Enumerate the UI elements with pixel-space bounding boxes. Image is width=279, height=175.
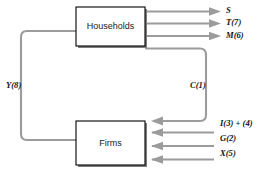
- flow-saving: [146, 7, 221, 16]
- firms-label: Firms: [99, 138, 122, 148]
- circular-flow-diagram: Households Firms S T(7) M(6) I(3) + (4) …: [0, 0, 279, 175]
- flow-taxes-arrowhead: [209, 19, 221, 28]
- flow-exports: [151, 155, 214, 164]
- flow-exports-arrowhead: [151, 155, 163, 164]
- flow-imports: [146, 32, 221, 41]
- flow-government-arrowhead: [151, 142, 163, 151]
- flow-investment-arrowhead: [151, 128, 163, 137]
- node-households[interactable]: Households: [76, 7, 147, 48]
- label-exports: X(5): [219, 148, 236, 158]
- households-label: Households: [87, 21, 135, 31]
- flow-investment: [151, 128, 214, 137]
- label-consumption: C(1): [190, 80, 206, 90]
- flow-diagram-svg: Households Firms S T(7) M(6) I(3) + (4) …: [0, 0, 279, 175]
- label-saving: S: [226, 5, 231, 15]
- flow-income-line: [21, 31, 76, 140]
- flow-imports-arrowhead: [209, 32, 221, 41]
- label-imports: M(6): [225, 30, 244, 40]
- node-firms[interactable]: Firms: [76, 121, 147, 167]
- flow-income: [21, 31, 76, 140]
- flow-taxes: [146, 19, 221, 28]
- flow-consumption-arrowhead: [151, 117, 163, 126]
- label-taxes: T(7): [226, 17, 241, 27]
- label-investment: I(3) + (4): [219, 118, 253, 128]
- label-income: Y(8): [6, 80, 21, 90]
- flow-government: [151, 142, 214, 151]
- label-government: G(2): [220, 133, 236, 143]
- flow-saving-arrowhead: [209, 7, 221, 16]
